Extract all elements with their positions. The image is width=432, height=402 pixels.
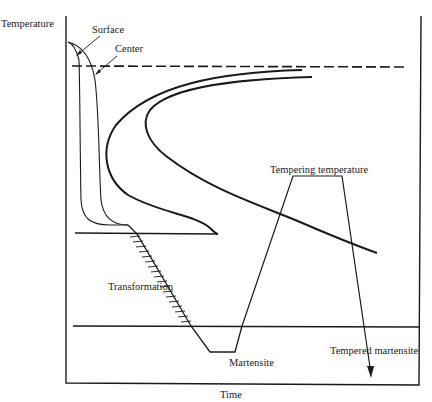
- transformation-label: Transformation: [108, 281, 174, 292]
- center-cooling-curve: [68, 42, 128, 225]
- surface-label: Surface: [92, 24, 124, 35]
- martensite-label: Martensite: [229, 357, 274, 368]
- y-axis-label: Temperature: [1, 18, 54, 29]
- transformation-hatching: [130, 236, 191, 322]
- frame-box: [66, 16, 421, 385]
- dashed-temperature-line: [72, 66, 407, 67]
- tempering-temperature-label: Tempering temperature: [270, 164, 368, 175]
- ttt-start-curve: [106, 70, 302, 234]
- arrow-head-icon: [367, 366, 374, 378]
- mf-line: [73, 326, 419, 327]
- x-axis-label: Time: [220, 389, 242, 400]
- tempered-martensite-label: Tempered martensite: [330, 345, 419, 356]
- martempering-diagram: Temperature Time Surface Center Temperin…: [0, 0, 432, 402]
- ms-line: [75, 233, 218, 234]
- center-label: Center: [115, 43, 143, 54]
